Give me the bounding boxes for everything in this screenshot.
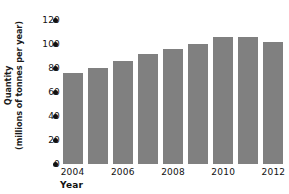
bar [263,42,283,164]
y-tick-marker [53,42,58,47]
y-tick-marker [53,114,58,119]
y-tick-marker [53,162,58,167]
bar-chart: Quantity (millions of tonnes per year) 0… [0,0,289,194]
x-tick-label: 2010 [203,167,243,177]
bar [138,54,158,164]
y-axis-title: Quantity (millions of tonnes per year) [0,0,26,170]
y-axis-title-line2: (millions of tonnes per year) [13,21,24,150]
y-tick-marker [53,66,58,71]
y-tick-marker [53,138,58,143]
bar [238,37,258,164]
bar [163,49,183,164]
x-tick-label: 2006 [103,167,143,177]
x-axis-title: Year [60,180,83,190]
bar [113,61,133,164]
x-tick-label: 2012 [253,167,289,177]
y-tick-marker [53,18,58,23]
x-tick-label: 2004 [53,167,93,177]
bar [213,37,233,164]
plot-area [60,20,286,164]
bar [63,73,83,164]
y-axis-title-line1: Quantity [3,21,14,150]
bar [88,68,108,164]
bar [188,44,208,164]
y-tick-marker [53,90,58,95]
x-tick-label: 2008 [153,167,193,177]
